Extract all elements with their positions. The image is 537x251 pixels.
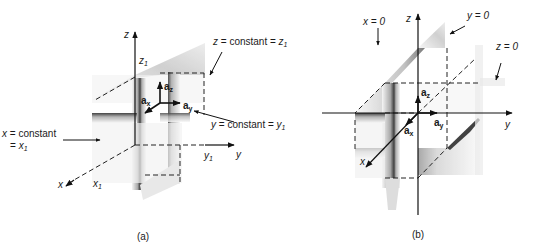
x-axis-label-a: x [57, 179, 64, 190]
figure-b: z y x az ax ay x = 0 y = 0 z = 0 (b) [322, 10, 518, 240]
z-plane-annotation-a: z = constant = z1 [212, 36, 288, 48]
caption-b: (b) [412, 229, 424, 240]
x-axis-a [66, 180, 74, 186]
x-plane-annotation-a-line1: x = constant [1, 128, 56, 139]
caption-a: (a) [137, 231, 149, 242]
ax-label-b: ax [404, 125, 414, 137]
z-plane-pointer-a [210, 52, 222, 75]
y-plane-pointer-b [450, 26, 465, 34]
x-plane-annotation-b: x = 0 [362, 16, 385, 27]
ay-label-b: ay [434, 117, 444, 130]
z-plane-annotation-b: z = 0 [495, 41, 518, 52]
x-plane-annotation-a-line2: = x1 [10, 140, 28, 152]
figure-a: z y x z1 y1 x1 az ax ay z = constant = z… [1, 29, 288, 242]
z1-tick-label: z1 [138, 55, 148, 67]
diagram-canvas: z y x z1 y1 x1 az ax ay z = constant = z… [0, 0, 537, 251]
plane-shading-b [355, 22, 505, 210]
y1-tick-label: y1 [203, 150, 213, 162]
z-axis-label-a: z [123, 29, 129, 40]
z-axis-label-b: z [405, 13, 411, 24]
y-plane-annotation-a: y = constant = y1 [210, 119, 286, 131]
plane-shading-a [92, 43, 205, 200]
y-axis-label-a: y [235, 149, 242, 160]
y-axis-label-b: y [504, 119, 511, 130]
z-plane-pointer-b [496, 63, 501, 80]
y-plane-annotation-b: y = 0 [466, 10, 489, 21]
x-axis-label-b: x [359, 156, 366, 167]
